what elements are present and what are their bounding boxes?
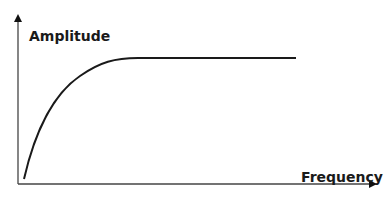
x-axis-label: Frequency: [301, 169, 383, 185]
y-axis-label: Amplitude: [29, 28, 110, 44]
response-curve: [24, 58, 296, 179]
